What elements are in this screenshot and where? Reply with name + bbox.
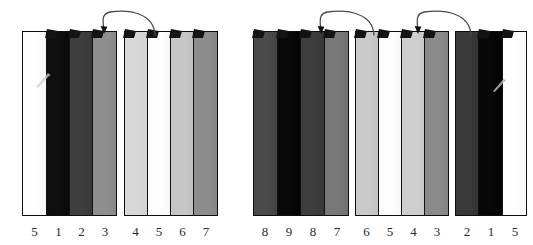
strip-stack xyxy=(253,31,349,216)
strip[interactable] xyxy=(402,32,425,215)
strip[interactable] xyxy=(456,32,479,215)
strip-label-row: 5123 xyxy=(22,224,117,240)
strip-label: 6 xyxy=(171,224,194,240)
strip-group: 215 xyxy=(455,31,527,244)
strip-label: 4 xyxy=(402,224,425,240)
strip-tab-icon xyxy=(252,24,266,33)
strip-tab-icon xyxy=(377,24,391,33)
strip-tab-icon xyxy=(423,24,437,33)
strip[interactable] xyxy=(425,32,448,215)
strip-tab-icon xyxy=(169,24,183,33)
strip-tab-icon xyxy=(477,24,491,33)
strip-label-row: 215 xyxy=(455,224,527,240)
strip-tab-icon xyxy=(299,24,313,33)
strip-tab-icon xyxy=(192,24,206,33)
strip-group: 4567 xyxy=(124,31,218,244)
strip[interactable] xyxy=(93,32,116,215)
strip-label: 5 xyxy=(378,224,402,240)
strip-stack xyxy=(124,31,218,216)
strip-label: 2 xyxy=(70,224,93,240)
strip[interactable] xyxy=(194,32,217,215)
strip-tab-icon xyxy=(276,24,290,33)
strip-label: 9 xyxy=(277,224,301,240)
strip[interactable] xyxy=(503,32,526,215)
strip-label: 7 xyxy=(325,224,349,240)
strip[interactable] xyxy=(23,32,47,215)
strip-label: 1 xyxy=(47,224,70,240)
strip-label: 2 xyxy=(455,224,479,240)
strip-group: 8987 xyxy=(253,31,349,244)
strip-label: 7 xyxy=(194,224,218,240)
strip-tab-icon xyxy=(146,24,160,33)
strip[interactable] xyxy=(171,32,194,215)
strip-label-row: 4567 xyxy=(124,224,218,240)
strip[interactable] xyxy=(148,32,172,215)
strip-tab-icon xyxy=(400,24,414,33)
strip-label: 3 xyxy=(425,224,449,240)
strip[interactable] xyxy=(379,32,403,215)
strip[interactable] xyxy=(70,32,93,215)
strip-label: 5 xyxy=(147,224,171,240)
strip-label: 4 xyxy=(124,224,147,240)
strip-tab-icon xyxy=(323,24,337,33)
strip-group: 6543 xyxy=(355,31,449,244)
strip[interactable] xyxy=(301,32,325,215)
strip-label: 5 xyxy=(22,224,47,240)
strip[interactable] xyxy=(254,32,278,215)
strip-label: 8 xyxy=(301,224,325,240)
strip-tab-icon xyxy=(68,24,82,33)
strip[interactable] xyxy=(278,32,302,215)
strip-tab-icon xyxy=(354,24,368,33)
strip-group: 5123 xyxy=(22,31,117,244)
strip[interactable] xyxy=(325,32,348,215)
strip[interactable] xyxy=(356,32,379,215)
strip-label: 8 xyxy=(253,224,277,240)
strip[interactable] xyxy=(479,32,502,215)
strip-label-row: 6543 xyxy=(355,224,449,240)
strip-stack xyxy=(355,31,449,216)
strip-label: 1 xyxy=(479,224,503,240)
strip[interactable] xyxy=(47,32,70,215)
strip-label: 3 xyxy=(93,224,117,240)
strip-tab-icon xyxy=(123,24,137,33)
strip-label: 6 xyxy=(355,224,378,240)
strip-label-row: 8987 xyxy=(253,224,349,240)
strip-stack xyxy=(455,31,527,216)
strip-tab-icon xyxy=(45,24,59,33)
strip-stack xyxy=(22,31,117,216)
strip-label: 5 xyxy=(503,224,527,240)
diagram-canvas: 5123456789876543215 xyxy=(0,0,533,245)
strip-tab-icon xyxy=(91,24,105,33)
strip[interactable] xyxy=(125,32,148,215)
strip-tab-icon xyxy=(501,24,515,33)
